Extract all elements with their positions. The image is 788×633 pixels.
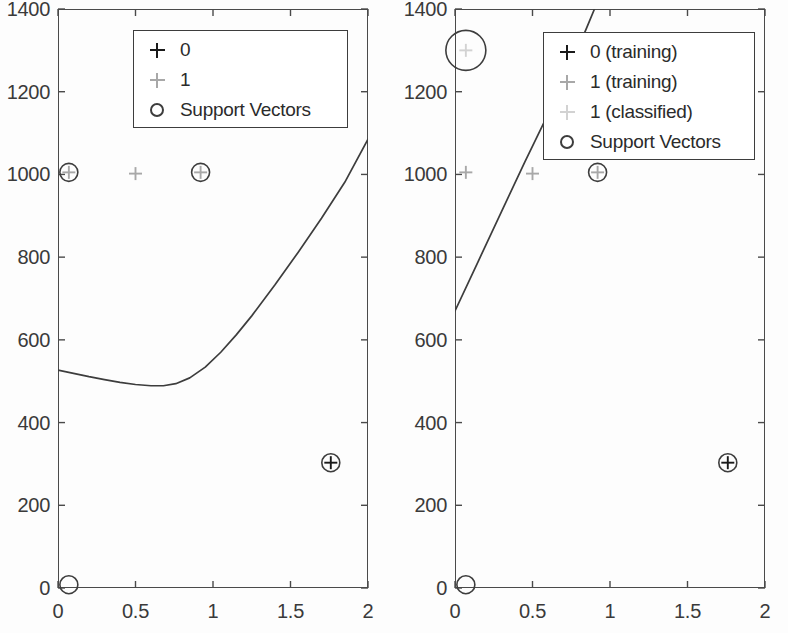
right-legend: 0 (training)1 (training)1 (classified)Su… <box>543 32 755 160</box>
legend-label: 0 <box>180 39 190 61</box>
y-tick-label: 1000 <box>0 163 50 186</box>
legend-item: 1 (classified) <box>544 97 754 127</box>
legend-label: 1 (classified) <box>590 101 692 123</box>
left-series-0 <box>324 456 337 469</box>
x-tick-label: 2 <box>760 600 771 623</box>
legend-label: 1 <box>180 69 190 91</box>
left-series-1 <box>62 166 207 180</box>
right-series-1-training- <box>459 166 604 180</box>
y-tick-label: 1400 <box>0 0 50 21</box>
circle-icon <box>560 135 574 149</box>
right-series-0-training- <box>721 456 734 469</box>
legend-label: Support Vectors <box>180 99 311 121</box>
y-tick-label: 800 <box>0 246 50 269</box>
left-decision-boundary <box>58 139 368 385</box>
y-tick-label: 0 <box>0 577 50 600</box>
legend-item: 1 (training) <box>544 67 754 97</box>
plus-icon <box>560 45 575 60</box>
legend-item: 0 (training) <box>544 37 754 67</box>
support-vector-marker <box>457 576 475 594</box>
x-tick-label: 1.5 <box>277 600 304 623</box>
legend-item: Support Vectors <box>544 127 754 157</box>
circle-icon <box>150 103 164 117</box>
legend-label: 0 (training) <box>590 41 677 63</box>
x-tick-label: 1 <box>605 600 616 623</box>
plus-icon <box>150 73 165 88</box>
y-tick-label: 0 <box>394 577 447 600</box>
x-tick-label: 1.5 <box>674 600 701 623</box>
legend-item: 1 <box>134 65 347 95</box>
y-tick-label: 400 <box>0 411 50 434</box>
plus-icon <box>150 43 165 58</box>
y-tick-label: 600 <box>394 328 447 351</box>
y-tick-label: 1200 <box>0 80 50 103</box>
y-tick-label: 400 <box>394 411 447 434</box>
x-tick-label: 0.5 <box>122 600 149 623</box>
svm-classification-figure: 0200400600800100012001400 00.511.52 01Su… <box>0 0 788 633</box>
y-tick-label: 200 <box>394 494 447 517</box>
y-tick-label: 1200 <box>394 80 447 103</box>
left-legend: 01Support Vectors <box>133 30 348 128</box>
plus-icon <box>560 105 575 120</box>
legend-label: Support Vectors <box>590 131 721 153</box>
left-plot-panel: 0200400600800100012001400 00.511.52 01Su… <box>0 0 394 633</box>
support-vector-marker <box>60 576 78 594</box>
x-tick-label: 0 <box>53 600 64 623</box>
x-tick-label: 0 <box>450 600 461 623</box>
y-tick-label: 1400 <box>394 0 447 21</box>
legend-item: 0 <box>134 35 347 65</box>
y-tick-label: 1000 <box>394 163 447 186</box>
y-tick-label: 600 <box>0 328 50 351</box>
x-tick-label: 0.5 <box>519 600 546 623</box>
right-plot-panel: 0200400600800100012001400 00.511.52 0 (t… <box>394 0 788 633</box>
x-tick-label: 1 <box>208 600 219 623</box>
y-tick-label: 200 <box>0 494 50 517</box>
right-series-1-classified- <box>459 44 472 57</box>
legend-item: Support Vectors <box>134 95 347 125</box>
x-tick-label: 2 <box>363 600 374 623</box>
y-tick-label: 800 <box>394 246 447 269</box>
plus-icon <box>560 75 575 90</box>
legend-label: 1 (training) <box>590 71 677 93</box>
